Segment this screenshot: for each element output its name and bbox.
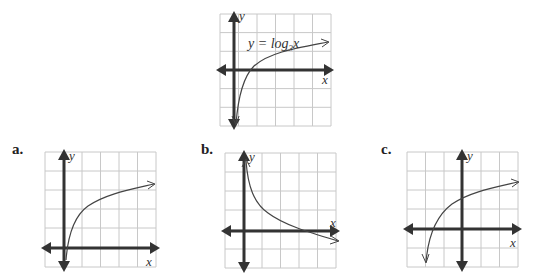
- option-c-graph[interactable]: y x: [400, 146, 526, 274]
- reference-graph: y x y = log3x: [212, 8, 338, 132]
- x-axis-label: x: [509, 235, 516, 250]
- reference-graph-svg: y x y = log3x: [212, 8, 338, 132]
- option-a-label: a.: [12, 141, 23, 158]
- equation-label: y = log3x: [246, 36, 300, 53]
- option-b-label: b.: [201, 141, 213, 158]
- y-axis-label: y: [237, 8, 245, 23]
- option-b-graph[interactable]: y x: [218, 147, 344, 275]
- y-axis-label: y: [465, 148, 473, 163]
- y-axis-label: y: [247, 149, 255, 164]
- x-axis-label: x: [321, 72, 328, 87]
- option-c-curve: [426, 182, 518, 262]
- log-curve: [236, 42, 328, 124]
- x-axis-label: x: [329, 215, 336, 230]
- y-axis-label: y: [67, 148, 75, 163]
- x-axis-label: x: [145, 254, 152, 269]
- option-a-graph[interactable]: y x: [38, 146, 164, 274]
- option-b-curve: [246, 161, 338, 241]
- option-c-label: c.: [381, 141, 391, 158]
- cropped-text-line: [0, 0, 553, 3]
